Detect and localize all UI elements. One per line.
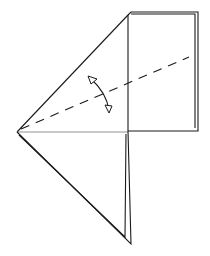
diagram-canvas [0, 0, 210, 256]
upper-diagonal-edge [17, 15, 128, 132]
lower-triangle-flap [17, 131, 131, 244]
valley-fold-line [21, 57, 189, 129]
arrow-head-bottom [105, 105, 112, 113]
origami-diagram [0, 0, 210, 256]
rectangle-flap [128, 12, 198, 131]
rectangle-outer-edge [128, 12, 198, 131]
rectangle-inner-edge [131, 14, 195, 128]
fold-arrow-icon [88, 76, 112, 113]
